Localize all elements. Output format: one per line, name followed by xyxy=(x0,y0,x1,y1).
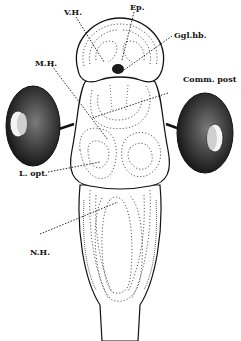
label-l-opt: L. opt. xyxy=(19,168,48,178)
ganglion-habenulae-mass xyxy=(112,64,124,74)
label-ggl-hb: Ggl.hb. xyxy=(174,30,207,40)
label-nh: N.H. xyxy=(30,247,50,257)
label-vh: V.H. xyxy=(63,7,82,17)
label-comm-post: Comm. post xyxy=(183,74,237,84)
right-eye xyxy=(177,93,233,173)
label-ep: Ep. xyxy=(130,2,145,12)
left-eye xyxy=(6,86,60,166)
midbrain xyxy=(71,75,170,190)
label-mh: M.H. xyxy=(35,58,57,68)
hindbrain xyxy=(79,185,161,341)
brain-illustration: V.H. Ep. Ggl.hb. M.H. Comm. post L. opt.… xyxy=(0,0,241,341)
forebrain xyxy=(76,18,163,82)
